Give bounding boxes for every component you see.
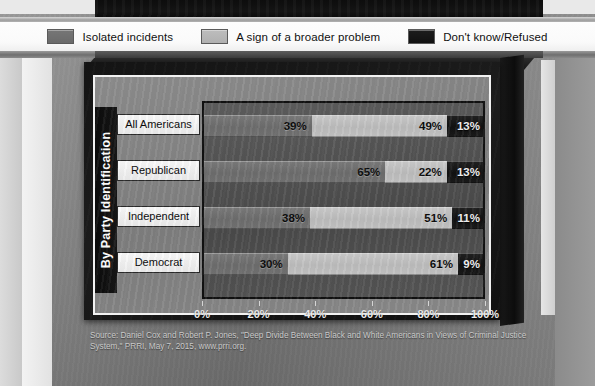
legend-swatch-icon [47,29,74,44]
bar-segment-dontknow: 9% [458,253,483,275]
x-axis-tick-label: 100% [471,308,499,320]
bar-segment-isolated: 65% [204,161,385,183]
x-axis-tick [315,301,316,306]
figure-block: By Party Identification All AmericansRep… [84,58,524,326]
bar-segment-isolated: 30% [204,253,288,275]
bar-value-label: 38% [282,212,305,224]
category-label-column: All AmericansRepublicanIndependentDemocr… [117,101,202,299]
bar-value-label: 30% [260,258,283,270]
page-top-left-margin [0,0,95,14]
legend-swatch-icon [408,29,435,44]
x-axis-tick [259,301,260,306]
page-left-gutter-inner [22,58,52,386]
axis-title-by-party-identification: By Party Identification [95,107,117,293]
bar-value-label: 49% [419,120,442,132]
x-axis-tick [428,301,429,306]
legend-label: Isolated incidents [82,31,173,43]
x-axis-tick-label: 40% [304,308,326,320]
legend-item-isolated-incidents: Isolated incidents [47,29,173,44]
category-label: Democrat [117,252,200,273]
bar-segment-broader: 22% [385,161,446,183]
chart-legend: Isolated incidents A sign of a broader p… [0,22,595,51]
legend-label: Don't know/Refused [443,31,547,43]
bar-segment-dontknow: 13% [447,161,483,183]
axis-title-label: By Party Identification [99,132,113,269]
x-axis-tick [485,301,486,306]
category-label-row: Republican [117,158,200,182]
x-axis-tick-label: 60% [361,308,383,320]
x-axis-tick-label: 80% [417,308,439,320]
x-axis-tick [372,301,373,306]
page-top-right-margin [543,0,595,14]
legend-item-broader-problem: A sign of a broader problem [201,29,380,44]
bar-value-label: 61% [430,258,453,270]
bar-row: 39%49%13% [204,115,483,137]
bar-row: 65%22%13% [204,161,483,183]
category-label-row: Independent [117,204,200,228]
legend-item-dont-know: Don't know/Refused [408,29,547,44]
x-axis-tick-label: 0% [194,308,210,320]
chart-area: All AmericansRepublicanIndependentDemocr… [117,101,485,299]
bar-row: 30%61%9% [204,253,483,275]
bar-value-label: 39% [284,120,307,132]
bar-segment-dontknow: 13% [447,115,483,137]
bar-value-label: 13% [457,166,480,178]
category-label: Independent [117,206,200,227]
page-left-gutter-outer [0,58,22,386]
x-axis-tick-label: 20% [248,308,270,320]
bar-value-label: 51% [424,212,447,224]
page-right-edge [555,58,595,386]
bar-segment-broader: 49% [312,115,447,137]
bar-segment-isolated: 38% [204,207,310,229]
plot-column: 39%49%13%65%22%13%38%51%11%30%61%9% [202,101,485,299]
bar-segment-isolated: 39% [204,115,312,137]
legend-swatch-icon [201,29,228,44]
source-caption: Source: Daniel Cox and Robert P. Jones, … [90,330,530,352]
bar-segment-broader: 61% [288,253,458,275]
x-axis-tick [202,301,203,306]
bar-segment-dontknow: 11% [452,207,483,229]
bar-value-label: 11% [458,212,480,224]
bar-value-label: 9% [463,258,480,270]
page-right-edge-highlight [541,60,555,315]
legend-label: A sign of a broader problem [236,31,380,43]
category-label: All Americans [117,114,200,135]
bar-segment-broader: 51% [310,207,452,229]
bar-value-label: 65% [357,166,380,178]
x-axis: 0%20%40%60%80%100% [202,301,485,327]
figure-face: By Party Identification All AmericansRep… [84,62,500,320]
bar-row: 38%51%11% [204,207,483,229]
category-label: Republican [117,160,200,181]
bar-value-label: 22% [419,166,442,178]
bar-value-label: 13% [457,120,480,132]
category-label-row: All Americans [117,112,200,136]
plot-card: By Party Identification All AmericansRep… [93,75,491,315]
category-label-row: Democrat [117,250,200,274]
figure-side-bevel [500,55,524,326]
